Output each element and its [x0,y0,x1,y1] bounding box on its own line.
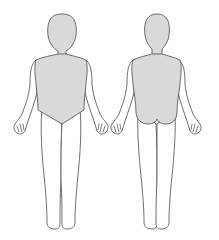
front-right-arm[interactable] [84,60,108,134]
body-map-diagram [0,0,219,240]
back-left-arm[interactable] [111,60,135,134]
front-head[interactable] [48,14,77,55]
back-right-leg[interactable] [156,112,175,229]
front-right-leg[interactable] [61,108,81,229]
front-left-arm[interactable] [14,60,38,134]
front-left-leg[interactable] [41,108,62,229]
back-view-figure [111,14,201,229]
back-head[interactable] [145,14,170,55]
back-left-leg[interactable] [138,112,157,229]
front-view-figure [14,14,108,229]
back-torso[interactable] [132,54,181,124]
body-map-svg [0,0,219,240]
